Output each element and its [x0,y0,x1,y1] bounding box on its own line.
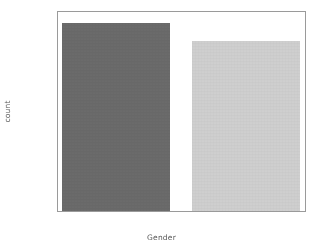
y-axis-title: count [2,11,13,212]
x-axis-title: Gender [0,233,323,242]
y-tick-mark [57,38,58,39]
plot-area: 0 2000 4000 6000 8000 10000 [57,11,306,212]
bar-texture [192,41,300,211]
y-tick-mark [57,176,58,177]
bar-female[interactable] [62,23,170,211]
y-tick-mark [57,72,58,73]
bar-texture [62,23,170,211]
bar-male[interactable] [192,41,300,211]
x-tick-mark-male [246,211,247,212]
y-tick-mark [57,142,58,143]
y-tick-mark [57,107,58,108]
y-tick-mark [57,211,58,212]
figure: count 0 2000 4000 6000 8000 10000 [0,0,323,251]
x-tick-mark-female [116,211,117,212]
